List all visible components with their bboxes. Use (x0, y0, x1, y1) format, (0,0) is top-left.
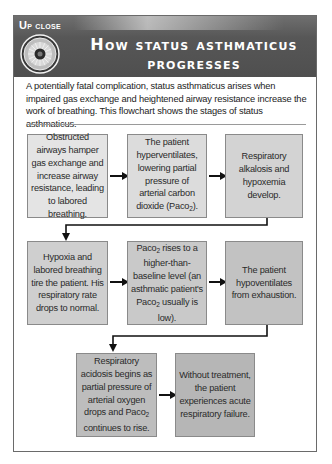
flow-step-6-text: The patient hypoventilates from exhausti… (229, 264, 299, 302)
text-part: usually is low). (158, 297, 198, 323)
intro-text: A potentially fatal complication, status… (26, 80, 310, 130)
up-close-panel: Up close How status asthmaticus progress… (13, 15, 317, 452)
arrow-right-icon (110, 175, 124, 177)
flow-step-1: Obstructed airways hamper gas exchange a… (27, 134, 108, 218)
flow-step-3: Respiratory alkalosis and hypoxemia deve… (225, 134, 303, 218)
arrow-right-icon (209, 175, 222, 177)
section-label: Up close (19, 19, 61, 31)
header-band: Up close How status asthmaticus progress… (14, 16, 316, 77)
eye-lens-icon (20, 34, 60, 74)
arrow-right-icon (209, 281, 222, 283)
flow-step-6: The patient hypoventilates from exhausti… (225, 241, 303, 325)
flow-step-7: Respiratory acidosis begins as partial p… (76, 353, 157, 437)
flow-step-7-text: Respiratory acidosis begins as partial p… (80, 355, 153, 435)
connector-arrow-icon (14, 216, 316, 244)
text-part: Paco (136, 243, 156, 253)
flow-step-2-text: The patient hyperventilates, lowering pa… (131, 136, 203, 216)
flow-step-3-text: Respiratory alkalosis and hypoxemia deve… (229, 150, 299, 201)
text-part: Respiratory acidosis begins as partial p… (81, 356, 152, 417)
header-sheen (74, 16, 284, 30)
section-label-rest: p close (27, 20, 61, 31)
arrow-right-icon (110, 281, 124, 283)
divider (26, 124, 306, 125)
flow-step-4-text: Hypoxia and labored breathing tire the p… (31, 251, 104, 315)
flow-step-1-text: Obstructed airways hamper gas exchange a… (31, 131, 104, 221)
title-line-2: progresses (74, 54, 314, 73)
flow-step-8: Without treatment, the patient experienc… (175, 353, 255, 437)
flow-step-5: Paco2 rises to a higher-than-baseline le… (127, 241, 207, 325)
text-part: continues to rise. (84, 423, 150, 433)
text-part: The patient hyperventilates, lowering pa… (136, 137, 197, 211)
flow-step-5-text: Paco2 rises to a higher-than-baseline le… (131, 242, 203, 325)
title-line-1: How status asthmaticus (74, 35, 314, 54)
section-label-initial: U (19, 19, 27, 31)
page-title: How status asthmaticus progresses (74, 35, 314, 73)
flow-step-8-text: Without treatment, the patient experienc… (179, 369, 251, 420)
flow-step-2: The patient hyperventilates, lowering pa… (127, 134, 207, 218)
flow-step-4: Hypoxia and labored breathing tire the p… (27, 241, 108, 325)
arrow-right-icon (159, 394, 172, 396)
subscript: 2 (146, 411, 149, 418)
text-part: ). (193, 201, 198, 211)
connector-arrow-icon (14, 323, 316, 355)
